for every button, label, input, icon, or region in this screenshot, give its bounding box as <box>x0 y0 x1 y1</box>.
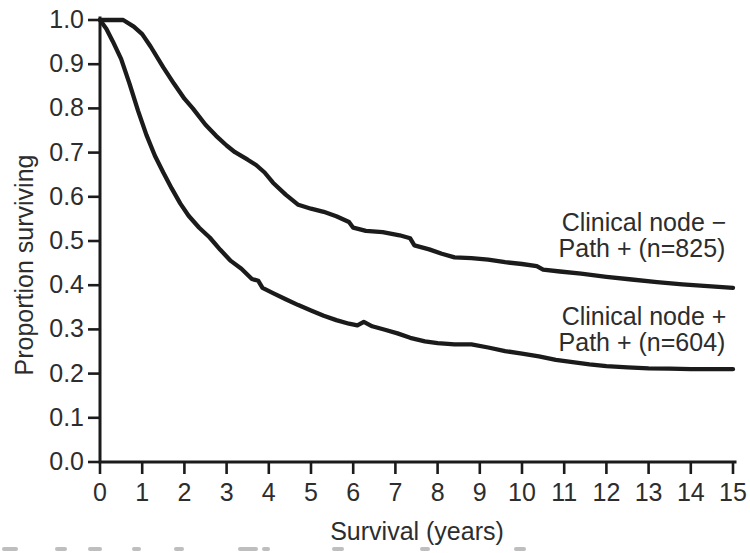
y-tick-label-0.9: 0.9 <box>49 49 84 77</box>
x-tick-label-9: 9 <box>473 478 487 506</box>
x-axis-title: Survival (years) <box>330 517 504 545</box>
y-tick-label-0.5: 0.5 <box>49 226 84 254</box>
y-tick-label-0.0: 0.0 <box>49 447 84 475</box>
y-tick-label-0.7: 0.7 <box>49 138 84 166</box>
y-tick-label-0.8: 0.8 <box>49 93 84 121</box>
y-tick-label-0.2: 0.2 <box>49 359 84 387</box>
x-tick-label-2: 2 <box>177 478 191 506</box>
y-axis-title: Proportion surviving <box>10 155 38 376</box>
x-tick-label-7: 7 <box>388 478 402 506</box>
x-tick-label-1: 1 <box>135 478 149 506</box>
survival-chart: 1.00.90.80.70.60.50.40.30.20.10.00123456… <box>0 0 750 553</box>
x-tick-label-13: 13 <box>635 478 663 506</box>
y-tick-label-0.4: 0.4 <box>49 270 84 298</box>
curve-label-node-negative-line2: Path + (n=825) <box>559 234 726 262</box>
x-tick-label-0: 0 <box>93 478 107 506</box>
x-tick-label-11: 11 <box>551 478 577 506</box>
survival-chart-figure: 1.00.90.80.70.60.50.40.30.20.10.00123456… <box>0 0 750 553</box>
x-tick-label-12: 12 <box>592 478 620 506</box>
x-tick-label-15: 15 <box>719 478 747 506</box>
y-tick-label-0.3: 0.3 <box>49 314 84 342</box>
x-tick-label-5: 5 <box>304 478 318 506</box>
x-tick-label-3: 3 <box>220 478 234 506</box>
y-tick-label-0.6: 0.6 <box>49 182 84 210</box>
x-tick-label-8: 8 <box>431 478 445 506</box>
x-tick-label-10: 10 <box>508 478 536 506</box>
x-tick-label-6: 6 <box>346 478 360 506</box>
curve-label-node-positive-line1: Clinical node + <box>562 302 727 330</box>
y-tick-label-0.1: 0.1 <box>49 403 84 431</box>
curve-label-node-negative-line1: Clinical node − <box>562 208 727 236</box>
curve-label-node-positive-line2: Path + (n=604) <box>559 328 726 356</box>
y-tick-label-1.0: 1.0 <box>49 5 84 33</box>
x-tick-label-14: 14 <box>677 478 705 506</box>
x-tick-label-4: 4 <box>262 478 276 506</box>
